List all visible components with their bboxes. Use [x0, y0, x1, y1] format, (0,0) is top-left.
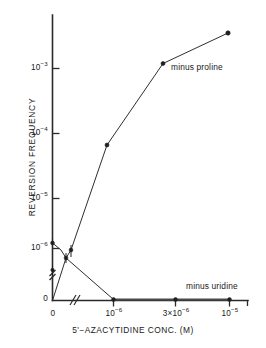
series-line-minus-proline	[53, 33, 229, 301]
x-tick-label-1e-6: 10−6	[96, 309, 132, 318]
marker-group-minus-uridine	[51, 238, 232, 301]
y-tick-label-zero: 0	[14, 294, 48, 303]
y-axis-title: REVERSION FREQUENCY	[27, 67, 37, 247]
x-tick-label-zero: 0	[38, 309, 68, 318]
x-tick-label-3e-6: 3×10−6	[152, 309, 200, 318]
figure-container: 10−3 10−4 10−5 10−6 0 0 10−6 3×10−6 10−5…	[0, 0, 266, 348]
x-tick-label-1e-5: 10−5	[212, 309, 248, 318]
series-label-minus-uridine: minus uridine	[186, 281, 238, 291]
x-axis-title: 5'−AZACYTIDINE CONC. (M)	[0, 325, 266, 335]
series-label-minus-proline: minus proline	[171, 62, 223, 72]
